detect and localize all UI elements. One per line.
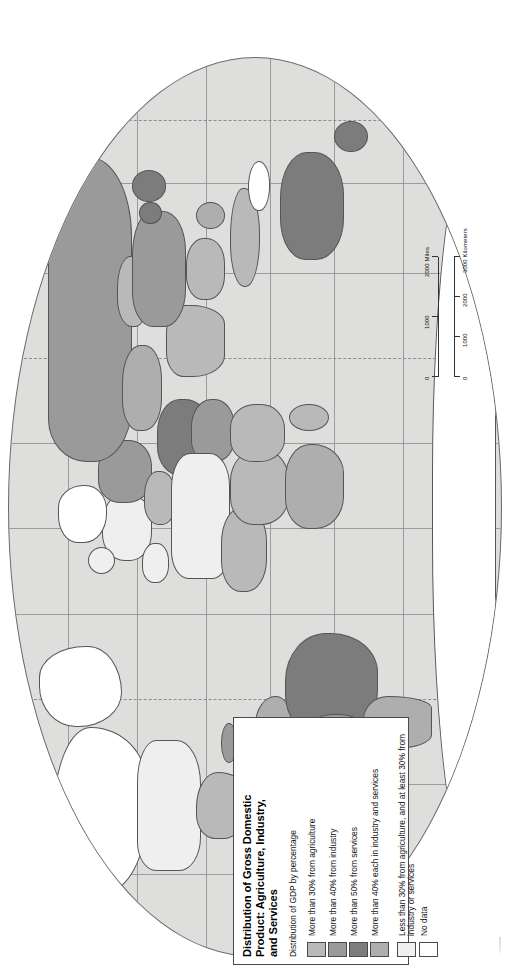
scale-km-tick-3000: 3000 Kilometers [462,228,468,273]
landmass-southeast-asia [186,238,225,301]
legend-item-agriculture[interactable]: More than 30% from agriculture [307,726,326,957]
legend-content: Distribution of Gross Domestic Product: … [234,718,410,966]
legend-item-no-data[interactable]: No data [419,726,438,957]
legend-swatch-agriculture [307,942,326,957]
landmass-papua-new-guinea [248,161,270,210]
legend-swatch-no-data [419,942,438,957]
legend-label-agriculture: More than 30% from agriculture [307,819,318,936]
legend-title-line-2: Product: Agriculture, Industry, [254,726,267,957]
landmass-japan [132,170,166,201]
landmass-central-asia [122,345,161,430]
landmass-korea [139,202,161,224]
scale-km-tick-2000: 2000 [462,293,468,307]
legend-subtitle: Distribution of GDP by percentage [288,726,298,957]
legend-item-services[interactable]: More than 50% from services [349,726,368,957]
legend-item-industry-and-services[interactable]: More than 40% each in industry and servi… [370,726,389,957]
landmass-scandinavia [58,485,107,543]
legend-item-industry[interactable]: More than 40% from industry [328,726,347,957]
landmass-greenland [39,646,123,727]
legend-label-no-data: No data [419,907,430,936]
landmass-british-isles [88,547,115,574]
legend-items: More than 30% from agriculture More than… [307,726,441,957]
landmass-southern-africa [285,444,344,529]
legend-item-mixed[interactable]: Less than 30% from agriculture, and at l… [397,726,418,957]
scale-km-tick-1000: 1000 [462,333,468,347]
scale-miles-tick-2000: 2000 Miles [424,247,430,277]
landmass-madagascar [289,404,328,431]
scale-miles-tick-0: 0 [424,377,430,380]
page-artifact [499,937,501,953]
map-page: 0 1000 2000 Miles 0 1000 2000 3000 Kilom… [0,0,509,975]
landmass-australia [280,152,344,260]
landmass-iberia [142,543,169,583]
landmass-canada [53,727,146,893]
legend-title-line-1: Distribution of Gross Domestic [241,726,254,957]
legend-label-industry: More than 40% from industry [328,828,339,936]
legend-label-industry-and-services: More than 40% each in industry and servi… [370,769,381,936]
scale-bar: 0 1000 2000 Miles 0 1000 2000 3000 Kilom… [424,209,482,377]
legend-swatch-services [349,942,368,957]
legend-swatch-industry [328,942,347,957]
legend-label-mixed: Less than 30% from agriculture, and at l… [397,726,418,936]
legend-panel: Distribution of Gross Domestic Product: … [233,717,409,965]
legend-title-line-3: and Services [267,726,280,957]
scale-km-tick-0: 0 [462,377,468,380]
landmass-philippines [196,202,226,229]
legend-swatch-mixed [397,942,416,957]
landmass-united-states [137,741,201,871]
landmass-china [132,211,186,328]
legend-label-services: More than 50% from services [349,827,360,936]
legend-swatch-industry-and-services [370,942,389,957]
landmass-east-africa [230,404,284,462]
legend-title: Distribution of Gross Domestic Product: … [241,726,281,957]
landmass-new-zealand [334,121,368,152]
scale-miles-tick-1000: 1000 [424,315,430,329]
